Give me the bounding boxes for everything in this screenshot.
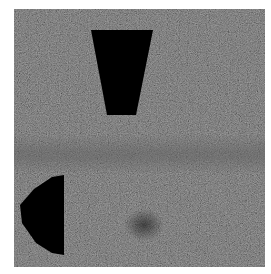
black-half-disc: [20, 175, 64, 255]
black-trapezoid: [91, 30, 153, 115]
image-frame: [14, 9, 265, 267]
occluding-shapes: [14, 9, 265, 267]
